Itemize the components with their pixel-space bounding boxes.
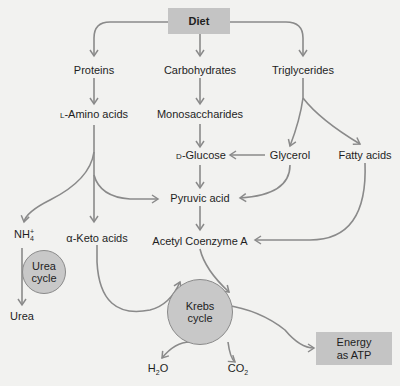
arrow-krebs-energy [225,305,314,348]
triglycerides-label: Triglycerides [272,64,334,77]
carbohydrates-label: Carbohydrates [164,64,236,77]
amino-acids-label: L-Amino acids [60,108,128,122]
metabolism-diagram: Diet Proteins Carbohydrates Triglyceride… [0,0,400,386]
arrow-amino-nh4 [24,125,94,222]
monosaccharides-label: Monosaccharides [157,108,243,121]
urea-cycle-line1: Urea [31,260,56,272]
four-sub: 4 [30,235,34,242]
proteins-label: Proteins [74,64,114,77]
urea-cycle-circle: Urea cycle [22,250,66,294]
h-text: H [148,362,156,374]
acetyl-coa-label: Acetyl Coenzyme A [152,235,247,248]
urea-cycle-line2: cycle [31,272,56,284]
arrow-amino-pyruvic [94,175,158,199]
glucose-text: -Glucose [182,149,226,161]
plus-sup: + [30,228,34,235]
glycerol-label: Glycerol [270,149,310,162]
nh-text: NH [14,228,30,240]
arrow-krebs-h2o [162,342,190,358]
diet-label: Diet [189,15,210,28]
energy-line2: as ATP [337,349,372,362]
co-text: CO [228,362,245,374]
pyruvic-acid-label: Pyruvic acid [170,192,229,205]
water-label: H2O [148,362,168,379]
arrow-diet-proteins [94,22,168,56]
diet-box: Diet [168,8,230,34]
glucose-label: D-Glucose [176,149,226,163]
keto-acids-label: α-Keto acids [66,232,127,245]
urea-label: Urea [10,310,34,323]
o-text: O [160,362,169,374]
arrow-fatty-acetyl [255,163,365,240]
arrow-trig-glycerol [290,78,303,146]
arrow-glycerol-pyruvic [240,165,290,198]
krebs-line2: cycle [186,312,215,324]
arrow-krebs-co2 [228,342,235,362]
co2-label: CO2 [228,362,248,379]
two-sub: 2 [244,369,248,376]
energy-atp-box: Energy as ATP [316,332,392,365]
arrow-trig-fatty [303,98,360,144]
amino-text: -Amino acids [64,108,128,120]
ammonium-label: NH+4 [14,228,34,242]
arrow-diet-triglycerides [230,22,303,56]
fatty-acids-label: Fatty acids [338,149,391,162]
krebs-line1: Krebs [186,300,215,312]
krebs-cycle-circle: Krebs cycle [167,279,233,345]
energy-line1: Energy [337,336,372,349]
